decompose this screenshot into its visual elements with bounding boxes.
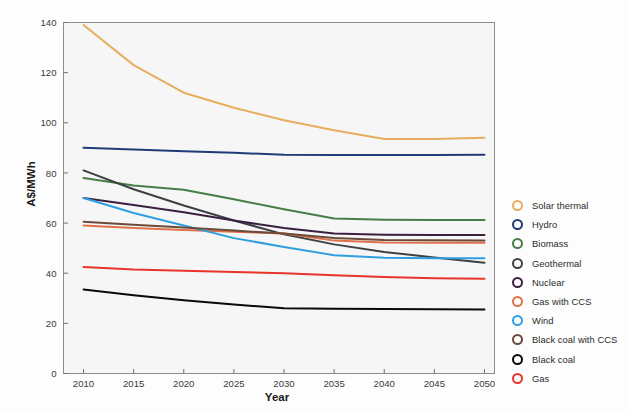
chart-figure: 0204060801001201402010201520202025203020… xyxy=(0,0,630,413)
legend-item-label: Solar thermal xyxy=(532,200,588,211)
y-axis-title: A$/MWh xyxy=(25,144,37,224)
x-tick-label: 2010 xyxy=(73,378,94,389)
legend-item[interactable]: Wind xyxy=(512,311,630,330)
x-tick-label: 2030 xyxy=(273,378,294,389)
legend-item-label: Black coal with CCS xyxy=(532,334,617,345)
y-tick-label: 140 xyxy=(40,17,56,28)
y-tick-label: 40 xyxy=(46,268,57,279)
plot-inner-fill xyxy=(64,23,495,374)
legend-item[interactable]: Solar thermal xyxy=(512,196,630,215)
legend-swatch-circle-icon xyxy=(512,373,523,384)
legend-item[interactable]: Black coal xyxy=(512,350,630,369)
y-tick-label: 80 xyxy=(46,168,57,179)
legend-item-label: Gas with CCS xyxy=(532,296,591,307)
legend-item[interactable]: Gas with CCS xyxy=(512,292,630,311)
legend-item-label: Wind xyxy=(532,315,554,326)
legend-item[interactable]: Nuclear xyxy=(512,273,630,292)
legend-item[interactable]: Geothermal xyxy=(512,254,630,273)
x-tick-label: 2020 xyxy=(173,378,194,389)
legend-swatch-circle-icon xyxy=(512,315,523,326)
y-tick-label: 120 xyxy=(40,67,56,78)
x-tick-label: 2015 xyxy=(123,378,144,389)
legend-item[interactable]: Black coal with CCS xyxy=(512,330,630,349)
legend-item[interactable]: Hydro xyxy=(512,215,630,234)
y-tick-label: 60 xyxy=(46,218,57,229)
legend-item-label: Hydro xyxy=(532,219,557,230)
legend-swatch-circle-icon xyxy=(512,296,523,307)
x-tick-label: 2040 xyxy=(374,378,395,389)
x-tick-label: 2045 xyxy=(424,378,445,389)
x-axis-title: Year xyxy=(232,391,322,403)
chart-legend: Solar thermalHydroBiomassGeothermalNucle… xyxy=(512,196,630,388)
legend-swatch-circle-icon xyxy=(512,258,523,269)
legend-item-label: Nuclear xyxy=(532,277,565,288)
y-tick-label: 100 xyxy=(40,117,56,128)
legend-swatch-circle-icon xyxy=(512,219,523,230)
y-tick-label: 20 xyxy=(46,318,57,329)
legend-swatch-circle-icon xyxy=(512,200,523,211)
legend-item-label: Geothermal xyxy=(532,258,581,269)
x-tick-label: 2050 xyxy=(474,378,495,389)
legend-item[interactable]: Biomass xyxy=(512,234,630,253)
legend-swatch-circle-icon xyxy=(512,354,523,365)
y-tick-label: 0 xyxy=(51,368,56,379)
legend-swatch-circle-icon xyxy=(512,277,523,288)
legend-swatch-circle-icon xyxy=(512,334,523,345)
legend-item-label: Gas xyxy=(532,373,549,384)
legend-swatch-circle-icon xyxy=(512,238,523,249)
x-tick-label: 2025 xyxy=(223,378,244,389)
x-tick-label: 2035 xyxy=(323,378,344,389)
legend-item[interactable]: Gas xyxy=(512,369,630,388)
legend-item-label: Biomass xyxy=(532,238,568,249)
legend-item-label: Black coal xyxy=(532,354,575,365)
